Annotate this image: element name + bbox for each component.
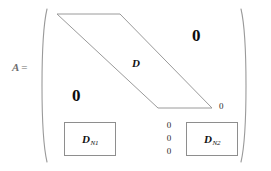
subblock-dn2-symbol: D (204, 133, 212, 145)
subblock-dn2-label: DN2 (204, 133, 220, 145)
subblock-dn2: DN2 (186, 122, 238, 156)
zero-column-item: 0 (163, 145, 175, 158)
zero-column-item: 0 (163, 132, 175, 145)
subblock-dn2-subscript: N2 (212, 139, 220, 147)
subblock-dn1: DN1 (64, 122, 116, 156)
subblock-dn1-label: DN1 (82, 133, 98, 145)
zero-block-upper-right: 0 (192, 26, 201, 46)
zero-column-item: 0 (163, 119, 175, 132)
zero-column: 0 0 0 (163, 119, 175, 158)
zero-block-lower-left: 0 (72, 86, 81, 106)
matrix-right-bracket (238, 8, 250, 163)
equals-sign: = (19, 61, 27, 73)
zero-band-edge: 0 (219, 101, 224, 111)
subblock-dn1-symbol: D (82, 133, 90, 145)
equation-left-hand-side: A= (12, 59, 42, 75)
matrix-structure-figure: A= D 0 0 0 0 0 0 DN1 DN2 (0, 0, 271, 171)
band-label-d: D (132, 57, 140, 69)
matrix-left-bracket (38, 8, 50, 163)
subblock-dn1-subscript: N1 (90, 139, 98, 147)
